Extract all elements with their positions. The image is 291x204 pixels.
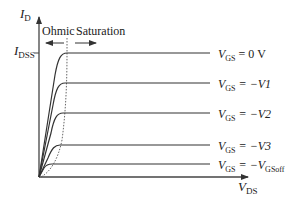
x-axis-label: VDS [238, 179, 257, 196]
characteristic-curves [39, 53, 210, 177]
curve-label-1: VGS = −V1 [218, 77, 271, 93]
idss-label: IDSS [13, 43, 35, 60]
saturation-label: Saturation [76, 24, 125, 38]
curve-vgs-off [39, 164, 210, 177]
curve-label-0: VGS = 0 V [218, 47, 266, 63]
y-axis-label: ID [19, 6, 31, 23]
curve-vgs-0 [39, 53, 210, 177]
curve-labels: VGS = 0 V VGS = −V1 VGS = −V2 VGS = −V3 … [218, 47, 285, 174]
ohmic-label: Ohmic [42, 24, 75, 38]
curve-label-2: VGS = −V2 [218, 107, 271, 123]
curve-vgs-v3 [39, 145, 210, 177]
curve-vgs-v1 [39, 83, 210, 177]
jfet-characteristics-diagram: ID VDS IDSS Ohmic Saturation VGS = 0 V V… [0, 0, 291, 204]
curve-label-4: VGS = −VGSoff [218, 158, 285, 174]
curve-label-3: VGS = −V3 [218, 139, 271, 155]
